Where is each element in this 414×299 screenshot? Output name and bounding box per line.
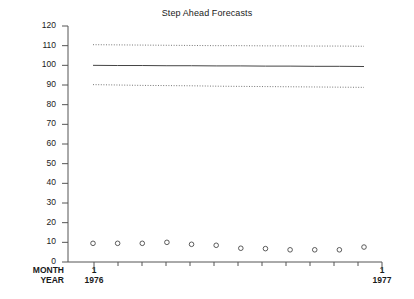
data-point-marker (189, 242, 194, 247)
data-point-marker (312, 248, 317, 253)
series-line (93, 65, 364, 66)
series-upper-forecast-limit (93, 45, 364, 47)
chart-container: Step Ahead Forecasts 120 110 100 90 80 7… (0, 0, 414, 299)
x-axis (68, 262, 382, 270)
series-line (93, 85, 364, 88)
data-point-marker (115, 241, 120, 246)
data-point-marker (214, 243, 219, 248)
series-observed (91, 240, 367, 252)
series-line (93, 45, 364, 47)
data-point-marker (337, 248, 342, 253)
data-point-marker (263, 246, 268, 251)
y-axis-ticks (62, 26, 68, 262)
series-layer (91, 45, 367, 252)
x-axis-ticks (94, 262, 382, 270)
data-point-marker (165, 240, 170, 245)
series-lower-forecast-limit (93, 85, 364, 88)
plot-area (0, 0, 414, 299)
data-point-marker (362, 245, 367, 250)
data-point-marker (91, 241, 96, 246)
series-forecast (93, 65, 364, 66)
data-point-marker (239, 246, 244, 251)
data-point-marker (288, 248, 293, 253)
y-axis (62, 26, 68, 262)
data-point-marker (140, 241, 145, 246)
